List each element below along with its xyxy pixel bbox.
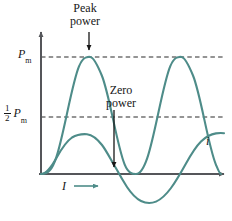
current-secondary-symbol: i [206, 134, 209, 148]
half-fraction: 12 [4, 104, 11, 123]
y-axis-label-pm: Pm [18, 48, 32, 64]
plot-canvas [0, 0, 232, 221]
current-primary-symbol: I [62, 179, 66, 193]
x-axis-label-current-secondary: i [206, 135, 209, 148]
peak-power-label-line1: Peak [73, 1, 96, 15]
fraction-denominator: 2 [4, 114, 11, 123]
peak-power-label-line2: power [70, 14, 100, 28]
zero-power-label: Zero power [98, 84, 144, 110]
zero-power-label-line1: Zero [110, 83, 133, 97]
x-axis-label-current-primary: I [62, 180, 66, 193]
pm-subscript: m [25, 56, 31, 65]
zero-power-label-line2: power [106, 96, 136, 110]
power-waveform-figure: Peak power Zero power Pm 12 Pm I i [0, 0, 232, 221]
y-axis-label-half-pm: 12 Pm [4, 105, 27, 124]
power-curve [41, 57, 221, 174]
current-curve [41, 133, 224, 203]
half-pm-symbol: P [14, 106, 21, 120]
half-pm-subscript: m [21, 116, 27, 125]
peak-power-label: Peak power [57, 2, 113, 28]
